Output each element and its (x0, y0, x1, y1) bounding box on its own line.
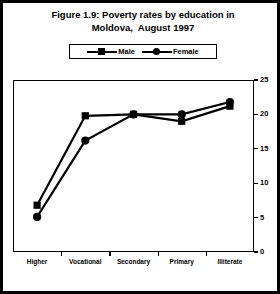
figure-container: Figure 1.9: Poverty rates by education i… (0, 0, 280, 294)
legend-item-female: Female (142, 47, 199, 56)
x-axis-tick-mark (158, 252, 159, 256)
chart-legend: Male Female (69, 44, 217, 59)
legend-line-male (87, 47, 117, 56)
y-axis-tick-label: 25 (260, 76, 268, 84)
series-line-female (37, 102, 230, 217)
y-axis-tick-mark (254, 183, 258, 184)
y-axis-tick-mark (254, 217, 258, 218)
title-line-2: Moldova, August 1997 (3, 21, 280, 34)
page-title: Figure 1.9: Poverty rates by education i… (3, 8, 280, 34)
x-axis-tick-mark (206, 252, 207, 256)
circle-marker-icon (153, 48, 160, 55)
legend-label-female: Female (173, 48, 199, 56)
circle-marker-icon (226, 98, 234, 106)
x-axis-tick-mark (61, 252, 62, 256)
y-axis-tick-mark (254, 148, 258, 149)
circle-marker-icon (178, 110, 186, 118)
x-axis-tick-label: Primary (170, 259, 194, 266)
square-marker-icon (82, 112, 89, 119)
y-axis-tick-label: 0 (260, 248, 264, 256)
x-axis-tick-label: Vocational (69, 259, 101, 266)
title-line-1: Figure 1.9: Poverty rates by education i… (3, 8, 280, 21)
legend-line-female (142, 47, 172, 56)
x-axis-tick-label: Secondary (117, 259, 150, 266)
y-axis-tick-label: 5 (260, 214, 264, 222)
y-axis-tick-label: 20 (260, 111, 268, 119)
legend-label-male: Male (118, 48, 135, 56)
circle-marker-icon (81, 136, 89, 144)
plot-series-layer (13, 80, 254, 252)
y-axis-tick-mark (254, 79, 258, 80)
circle-marker-icon (33, 213, 41, 221)
square-marker-icon (178, 118, 185, 125)
x-axis-tick-label: Illiterate (217, 259, 242, 266)
square-marker-icon (98, 48, 105, 55)
y-axis-tick-label: 15 (260, 145, 268, 153)
y-axis-tick-mark (254, 251, 258, 252)
series-line-male (37, 106, 230, 205)
x-axis-tick-mark (109, 252, 110, 256)
square-marker-icon (34, 202, 41, 209)
legend-item-male: Male (87, 47, 135, 56)
y-axis-tick-label: 10 (260, 179, 268, 187)
x-axis-tick-label: Higher (27, 259, 48, 266)
circle-marker-icon (129, 110, 137, 118)
y-axis-tick-mark (254, 114, 258, 115)
